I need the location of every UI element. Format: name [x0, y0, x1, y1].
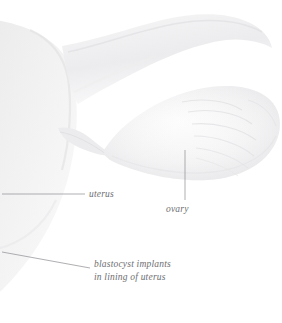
label-blastocyst-line1: blastocyst implants: [94, 258, 171, 271]
label-uterus: uterus: [89, 188, 114, 201]
anatomy-figure: uterus ovary blastocyst implants in lini…: [0, 0, 282, 323]
label-ovary: ovary: [166, 203, 189, 216]
label-blastocyst-implants: blastocyst implants in lining of uterus: [94, 258, 171, 283]
label-blastocyst-line2: in lining of uterus: [94, 271, 171, 284]
